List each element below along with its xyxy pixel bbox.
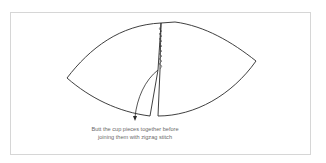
left-cup-piece — [67, 23, 161, 116]
figure-caption: Butt the cup pieces together before join… — [60, 125, 210, 141]
caption-line-2: joining them with zigzag stitch — [60, 133, 210, 141]
fold-arrow — [135, 70, 158, 117]
arrowhead-icon — [133, 116, 137, 121]
caption-line-1: Butt the cup pieces together before — [60, 125, 210, 133]
right-cup-piece — [158, 22, 256, 116]
